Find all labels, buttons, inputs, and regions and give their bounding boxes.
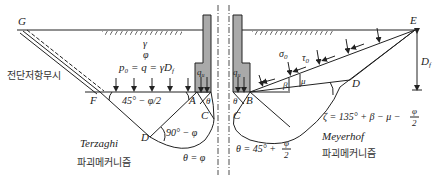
ground-hatch-left	[102, 31, 182, 35]
ignored-shear-line-2	[20, 33, 97, 94]
label-caption-terzaghi: 파괴메커니즘	[77, 157, 131, 168]
label-method-terzaghi: Terzaghi	[80, 137, 118, 149]
label-B: B	[246, 94, 253, 106]
theta-equation-right: θ = 45° + φ 2	[236, 138, 291, 160]
angle-arc-F	[109, 92, 112, 100]
stress-arrows	[259, 28, 379, 84]
label-D-left: D	[140, 131, 149, 143]
label-G: G	[18, 15, 26, 27]
angle-arc-D	[161, 127, 165, 141]
terzaghi-mechanism	[17, 5, 218, 175]
label-angle-D: 90° − φ	[166, 127, 198, 138]
label-sigma: σ0	[279, 48, 288, 61]
label-C-right: C	[233, 109, 241, 121]
surcharge-arrows	[116, 78, 188, 89]
ignored-shear-dashed-line	[27, 30, 104, 91]
ground-hatch-right	[252, 31, 334, 35]
label-beta: β	[282, 80, 288, 90]
footing-left	[195, 15, 211, 92]
line-B-lower	[250, 92, 290, 127]
label-angle-FA: 45° − φ/2	[122, 95, 161, 106]
svg-text:2: 2	[284, 150, 289, 160]
svg-text:2: 2	[412, 118, 417, 128]
svg-text:θ = 45° +: θ = 45° +	[236, 143, 276, 154]
label-F: F	[89, 94, 97, 106]
label-E: E	[409, 14, 417, 26]
label-theta-right-small: θ	[233, 96, 238, 106]
label-surcharge: p₀ = q = γDf	[118, 61, 175, 75]
zeta-equation: ζ = 135° + β − μ − φ 2	[323, 106, 419, 128]
line-B-E	[250, 30, 415, 92]
label-A: A	[188, 94, 196, 106]
label-theta-eq-left: θ = φ	[183, 152, 206, 163]
label-gamma: γ	[143, 38, 148, 49]
label-phi: φ	[143, 49, 149, 60]
footing-right	[233, 15, 250, 92]
svg-text:ζ = 135° + β − μ −: ζ = 135° + β − μ −	[323, 111, 401, 123]
label-mu: μ	[300, 76, 306, 86]
ignored-shear-line	[23, 31, 100, 92]
label-D-right: D	[351, 77, 360, 89]
failure-mechanism-diagram: G F A C D θ γ φ p₀ = q = γDf 전단저항무시 45° …	[0, 0, 440, 177]
svg-text:φ: φ	[412, 106, 417, 116]
label-theta-left-small: θ	[206, 96, 211, 106]
angle-arc-zeta	[330, 82, 333, 95]
label-caption-meyerhof: 파괴메커니즘	[322, 148, 376, 159]
label-method-meyerhof: Meyerhof	[321, 130, 366, 142]
label-C-left: C	[201, 109, 209, 121]
label-tau: τ0	[302, 52, 310, 65]
svg-text:φ: φ	[284, 138, 289, 148]
label-depth: Df	[420, 55, 432, 69]
label-ignored-shear: 전단저항무시	[7, 70, 61, 81]
